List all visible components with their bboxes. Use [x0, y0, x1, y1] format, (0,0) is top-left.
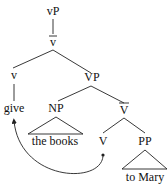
- edge-Vbar-V: [103, 118, 124, 133]
- edge-VP-Vbar: [91, 86, 124, 103]
- edge-VP-NP: [58, 86, 91, 101]
- leaf-give: give: [4, 101, 25, 115]
- edge-vbar-v: [13, 50, 53, 68]
- node-PP: PP: [138, 134, 152, 148]
- syntax-tree-diagram: vP v v give VP NP the books V V PP to Ma…: [0, 0, 167, 186]
- node-V-bar: V: [120, 103, 129, 117]
- leaf-to-mary: to Mary: [126, 170, 164, 184]
- node-VP: VP: [84, 70, 100, 84]
- node-NP: NP: [48, 101, 64, 115]
- leaf-the-books: the books: [32, 134, 79, 148]
- triangle-PP: [122, 150, 167, 169]
- node-V: V: [99, 134, 108, 148]
- node-v-bar: v: [50, 35, 56, 49]
- triangle-NP: [28, 117, 83, 134]
- node-v: v: [11, 68, 17, 82]
- edge-Vbar-PP: [124, 118, 145, 133]
- node-vP: vP: [47, 4, 60, 18]
